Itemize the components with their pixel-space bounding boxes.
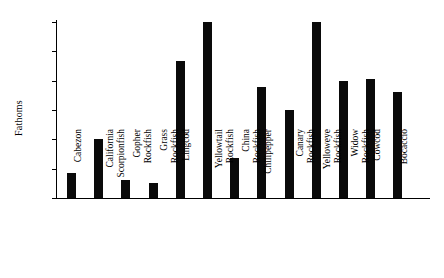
- x-axis-label: Lingcod: [181, 129, 195, 203]
- x-axis-label: GrassRockfish: [159, 129, 173, 203]
- x-axis-label: Bocaccio: [399, 129, 413, 203]
- x-axis-label: YellowtailRockfish: [214, 129, 228, 203]
- bar: [203, 22, 212, 198]
- x-axis-label: Chilipepper: [263, 129, 277, 203]
- x-axis-label: WidowRockfish: [350, 129, 364, 203]
- x-axis-label: Cowcod: [372, 129, 386, 203]
- bar: [285, 110, 294, 198]
- x-axis-label: GopherRockfish: [132, 129, 146, 203]
- bar: [94, 139, 103, 198]
- x-axis-label: CaliforniaScorpionfish: [105, 129, 119, 203]
- x-axis-label: YelloweyeRockfish: [322, 129, 336, 203]
- x-axis-label: Cabezon: [73, 129, 87, 203]
- bar-chart: Fathoms 050100150200250300 CabezonCalifo…: [0, 0, 444, 278]
- x-axis-label: ChinaRockfish: [241, 129, 255, 203]
- x-axis-label: CanaryRockfish: [295, 129, 309, 203]
